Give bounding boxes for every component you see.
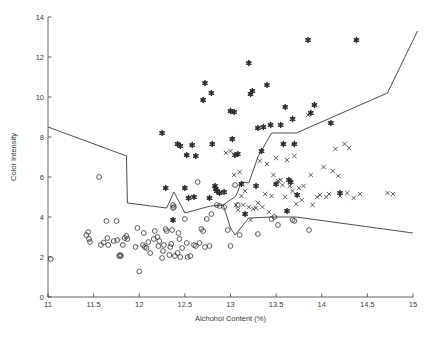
data-point-asterisk [207,196,211,201]
data-point-asterisk [222,190,226,195]
x-tick-label: 11 [44,300,52,309]
data-point-x [301,184,305,188]
data-point-x [292,154,296,158]
data-point-x [247,205,251,209]
data-point-x [269,194,273,198]
data-point-asterisk [312,103,316,108]
series-class-x [224,113,395,222]
data-point-circle [209,212,214,217]
data-point-circle [237,233,242,238]
data-point-x [336,174,340,178]
data-point-circle [104,219,109,224]
data-point-asterisk [309,111,313,116]
scatter-plot-svg: 1111.51212.51313.51414.51502468101214Alc… [0,0,429,343]
x-tick-label: 14 [318,300,326,309]
data-point-x [315,195,319,199]
data-point-circle [217,204,222,209]
data-point-x [310,203,314,207]
data-point-circle [106,243,111,248]
data-point-x [306,113,310,117]
data-point-circle [185,255,190,260]
data-point-x [347,146,351,150]
data-point-circle [228,244,233,249]
data-point-circle [184,241,189,246]
data-point-x [228,149,232,153]
data-point-asterisk [210,142,214,147]
data-point-x [288,184,292,188]
data-point-circle [141,231,146,236]
data-point-circle [180,246,185,251]
data-point-x [297,186,301,190]
x-tick-label: 15 [409,300,417,309]
data-point-circle [151,237,156,242]
data-point-x [283,195,287,199]
data-point-asterisk [290,117,294,122]
y-tick-label: 4 [40,213,44,222]
data-point-circle [133,245,138,250]
data-point-asterisk [243,212,247,217]
data-point-x [327,192,331,196]
data-point-x [331,169,335,173]
data-point-asterisk [283,105,287,110]
data-point-asterisk [265,83,269,88]
data-point-circle [168,245,173,250]
data-point-x [274,156,278,160]
data-point-x [299,198,303,202]
x-tick-label: 11.5 [87,300,101,309]
y-tick-label: 8 [40,133,44,142]
data-point-asterisk [183,186,187,191]
data-point-circle [233,183,238,188]
data-point-asterisk [254,184,258,189]
data-point-asterisk [354,38,358,43]
data-point-asterisk [160,131,164,136]
data-point-asterisk [279,123,283,128]
data-point-circle [169,242,174,247]
data-point-circle [207,244,212,249]
data-point-x [309,173,313,177]
data-point-x [236,208,240,212]
data-point-asterisk [190,143,194,148]
data-point-asterisk [274,182,278,187]
data-point-circle [176,231,181,236]
data-point-asterisk [329,121,333,126]
x-tick-label: 13 [226,300,234,309]
data-point-circle [167,253,172,258]
data-point-asterisk [306,38,310,43]
data-point-asterisk [281,142,285,147]
y-tick-label: 14 [36,13,44,22]
data-point-asterisk [256,126,260,131]
data-point-asterisk [164,186,168,191]
y-tick-label: 6 [40,173,44,182]
data-point-asterisk [203,81,207,86]
data-point-circle [161,243,166,248]
data-point-asterisk [171,218,175,223]
data-point-circle [255,232,260,237]
data-point-x [265,162,269,166]
data-point-circle [188,254,193,259]
x-tick-label: 13.5 [269,300,284,309]
data-point-x [232,173,236,177]
data-point-circle [148,251,153,256]
data-point-circle [135,226,140,231]
data-point-x [294,202,298,206]
data-point-x [342,142,346,146]
x-tick-label: 12.5 [178,300,193,309]
x-tick-label: 12 [135,300,143,309]
data-point-asterisk [285,209,289,214]
data-point-asterisk [292,142,296,147]
data-point-circle [178,255,183,260]
data-point-asterisk [185,153,189,158]
data-point-circle [170,228,175,233]
data-point-x [345,191,349,195]
chart-figure: 1111.51212.51313.51414.51502468101214Alc… [0,0,429,343]
data-point-circle [125,237,130,242]
data-point-circle [307,228,312,233]
data-point-circle [276,223,281,228]
data-point-asterisk [230,137,234,142]
y-tick-label: 0 [40,293,44,302]
data-point-asterisk [192,195,196,200]
data-point-x [321,165,325,169]
data-point-x [256,201,260,205]
data-point-circle [152,229,157,234]
data-point-x [391,192,395,196]
